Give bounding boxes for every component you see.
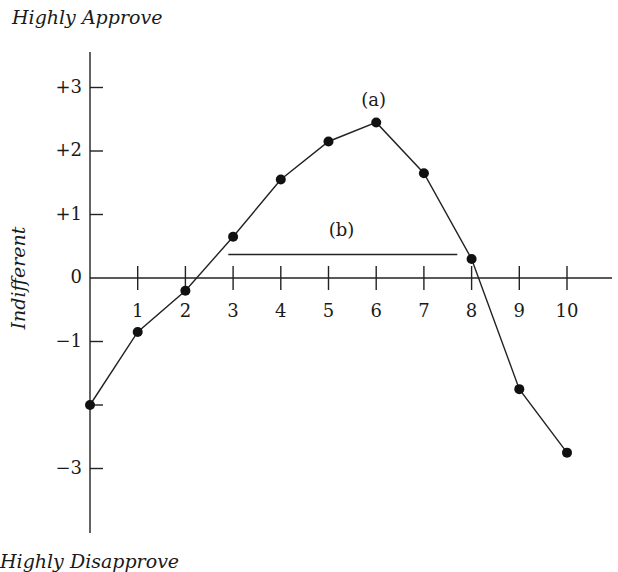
x-tick-label: 4 — [266, 300, 296, 321]
y-tick-label: −1 — [42, 330, 82, 351]
data-point — [514, 384, 524, 394]
data-point — [467, 254, 477, 264]
data-point — [276, 175, 286, 185]
data-point — [228, 232, 238, 242]
x-tick-label: 1 — [123, 300, 153, 321]
y-tick-label: −3 — [42, 457, 82, 478]
x-tick-label: 6 — [361, 300, 391, 321]
y-tick-label: +2 — [42, 139, 82, 160]
x-tick-label: 7 — [409, 300, 439, 321]
x-tick-label: 3 — [218, 300, 248, 321]
data-point — [419, 168, 429, 178]
data-point — [85, 400, 95, 410]
x-tick-label: 2 — [170, 300, 200, 321]
x-tick-label: 8 — [457, 300, 487, 321]
y-tick-label-zero: 0 — [42, 266, 82, 287]
annotation-b: (b) — [329, 219, 355, 240]
y-tick-label: +1 — [42, 203, 82, 224]
x-tick-label: 10 — [552, 300, 582, 321]
data-point — [371, 117, 381, 127]
x-tick-label: 9 — [504, 300, 534, 321]
data-point — [562, 448, 572, 458]
data-point — [324, 136, 334, 146]
annotation-a: (a) — [361, 89, 386, 110]
data-point — [180, 286, 190, 296]
y-tick-label: +3 — [42, 76, 82, 97]
data-point — [133, 327, 143, 337]
x-tick-label: 5 — [314, 300, 344, 321]
